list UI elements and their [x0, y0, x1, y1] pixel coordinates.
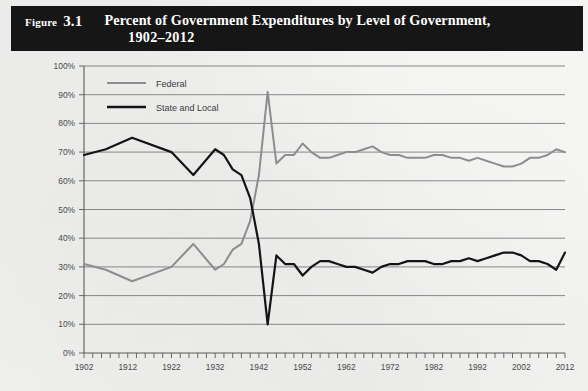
legend-label-state-and-local: State and Local — [156, 103, 219, 113]
y-axis-tick-label: 0% — [63, 348, 76, 358]
y-axis-tick-label: 70% — [58, 147, 75, 157]
x-axis-tick-label: 1962 — [337, 362, 356, 372]
x-axis-tick-label: 1912 — [118, 362, 137, 372]
x-axis-tick-label: 2002 — [512, 362, 531, 372]
page-footer-strip — [0, 384, 588, 391]
x-axis-tick-label: 1982 — [424, 362, 443, 372]
y-axis-ticks-group — [79, 66, 84, 353]
y-axis-labels-group: 100%90%80%70%60%50%40%30%20%10%0% — [54, 61, 76, 358]
figure-page: Figure3.1 Percent of Government Expendit… — [0, 0, 588, 391]
x-axis-tick-label: 1902 — [75, 362, 94, 372]
figure-label: Figure3.1 — [25, 12, 83, 30]
series-line-state-and-local — [84, 138, 565, 325]
figure-title-bar: Figure3.1 Percent of Government Expendit… — [11, 6, 583, 51]
y-axis-tick-label: 50% — [58, 205, 75, 215]
figure-title-row: Figure3.1 Percent of Government Expendit… — [25, 12, 573, 30]
chart-container: 100%90%80%70%60%50%40%30%20%10%0% 190219… — [11, 55, 583, 380]
y-axis-tick-label: 30% — [58, 262, 75, 272]
figure-number: 3.1 — [63, 13, 82, 29]
x-axis-tick-label: 1952 — [293, 362, 312, 372]
line-chart: 100%90%80%70%60%50%40%30%20%10%0% 190219… — [11, 55, 583, 380]
x-axis-tick-label: 1922 — [162, 362, 181, 372]
x-axis-tick-label: 1992 — [468, 362, 487, 372]
legend-label-federal: Federal — [156, 79, 187, 89]
y-axis-tick-label: 10% — [58, 319, 75, 329]
y-axis-tick-label: 20% — [58, 291, 75, 301]
figure-title-line1: Percent of Government Expenditures by Le… — [105, 12, 491, 29]
series-line-federal — [84, 92, 565, 281]
y-axis-tick-label: 60% — [58, 176, 75, 186]
chart-legend: Federal State and Local — [107, 79, 219, 113]
x-axis-tick-label: 2012 — [556, 362, 575, 372]
figure-label-word: Figure — [25, 16, 57, 28]
x-axis-labels-group: 1902191219221932194219521962197219821992… — [75, 362, 575, 372]
x-axis-tick-label: 1972 — [381, 362, 400, 372]
figure-title-line2: 1902–2012 — [128, 29, 573, 46]
y-axis-tick-label: 40% — [58, 233, 75, 243]
x-axis-tick-label: 1942 — [250, 362, 269, 372]
y-axis-tick-label: 90% — [58, 90, 75, 100]
y-axis-tick-label: 80% — [58, 118, 75, 128]
x-axis-tick-label: 1932 — [206, 362, 225, 372]
x-axis-ticks-group — [84, 353, 565, 358]
y-axis-tick-label: 100% — [54, 61, 76, 71]
